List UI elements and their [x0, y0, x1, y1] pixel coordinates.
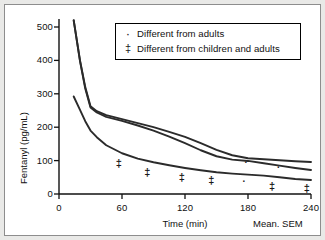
- double-dagger-marker: ‡: [206, 175, 216, 186]
- dot-marker: ·: [273, 159, 283, 173]
- legend-label: Different from children and adults: [135, 43, 280, 54]
- double-dagger-marker: ‡: [177, 172, 187, 183]
- figure-frame: 0100200300400500 060120180240 ‡‡‡‡··‡·‡ …: [4, 4, 321, 236]
- legend-item-different-from-children-and-adults: ‡ Different from children and adults: [121, 41, 294, 56]
- dot-marker: ·: [239, 173, 249, 187]
- double-dagger-marker: ‡: [114, 158, 124, 169]
- y-axis-tick-label: 400: [13, 54, 53, 65]
- x-axis-tick-label: 180: [228, 202, 268, 213]
- dot-marker: ·: [241, 154, 251, 168]
- y-axis-tick-label: 500: [13, 21, 53, 32]
- legend-item-different-from-adults: · Different from adults: [121, 26, 294, 41]
- x-axis-ticks: [59, 194, 311, 199]
- y-axis-tick-label: 300: [13, 88, 53, 99]
- x-axis-tick-label: 240: [291, 202, 325, 213]
- dot-marker-icon: ·: [121, 27, 135, 40]
- double-dagger-marker: ‡: [302, 183, 312, 194]
- figure-container: 0100200300400500 060120180240 ‡‡‡‡··‡·‡ …: [0, 0, 325, 240]
- mean-sem-note: Mean. SEM: [253, 218, 303, 229]
- x-axis-tick-label: 0: [39, 202, 79, 213]
- x-axis-tick-label: 60: [102, 202, 142, 213]
- x-axis-tick-label: 120: [165, 202, 205, 213]
- double-dagger-marker: ‡: [267, 181, 277, 192]
- double-dagger-marker-icon: ‡: [121, 43, 135, 54]
- y-axis-ticks: [54, 27, 59, 194]
- chart-legend: · Different from adults ‡ Different from…: [115, 23, 301, 60]
- double-dagger-marker: ‡: [142, 167, 152, 178]
- y-axis-title: Fentanyl (pg/mL): [18, 112, 29, 184]
- legend-label: Different from adults: [135, 28, 224, 39]
- y-axis-tick-label: 0: [13, 188, 53, 199]
- x-axis-title: Time (min): [125, 218, 245, 229]
